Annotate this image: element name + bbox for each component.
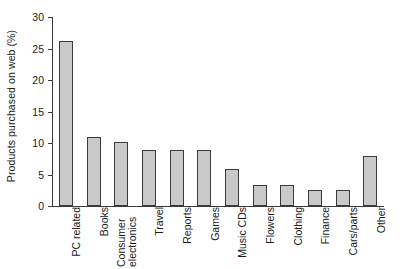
bar: [363, 156, 377, 206]
bar: [197, 150, 211, 206]
x-tick-label: Flowers: [265, 207, 276, 244]
x-tick-label-line: PC related: [70, 207, 82, 257]
x-tick-label: Cars/parts: [348, 207, 359, 255]
x-tick-label-line: Consumer: [115, 219, 127, 267]
y-tick-label: 20: [32, 74, 44, 86]
bar: [253, 185, 267, 206]
x-tick-label: Books: [99, 207, 110, 236]
bars-container: [52, 17, 384, 206]
y-tick-label: 0: [38, 200, 44, 212]
x-tick-label: PC related: [71, 207, 82, 257]
bar: [336, 190, 350, 206]
x-tick-label-line: Finance: [319, 207, 331, 244]
x-axis-tick-labels: PC relatedBooksConsumerelectronicsTravel…: [52, 207, 384, 269]
x-tick-label: Consumerelectronics: [116, 207, 138, 267]
x-tick-label-line: Books: [98, 207, 110, 236]
x-tick-label-line: Cars/parts: [347, 207, 359, 255]
x-tick-label-line: Travel: [153, 207, 165, 236]
y-tick-label: 5: [38, 169, 44, 181]
plot-area: [52, 17, 384, 206]
bar: [308, 190, 322, 206]
y-axis-tick-labels: 051015202530: [22, 0, 48, 212]
x-tick-label: Other: [376, 207, 387, 233]
y-tick-label: 10: [32, 137, 44, 149]
y-axis-title: Products purchased on web (%): [0, 0, 22, 212]
bar: [59, 41, 73, 206]
bar: [280, 185, 294, 206]
x-tick-label: Travel: [154, 207, 165, 236]
y-axis-title-text: Products purchased on web (%): [5, 30, 17, 182]
bar: [170, 150, 184, 206]
x-tick-label-line: Clothing: [292, 207, 304, 246]
y-tick-label: 25: [32, 43, 44, 55]
x-tick-label-line: Flowers: [264, 207, 276, 244]
bar-chart-figure: Products purchased on web (%) 0510152025…: [0, 0, 403, 269]
x-tick-label-line: electronics: [127, 207, 138, 267]
x-tick-label: Games: [210, 207, 221, 241]
bar: [87, 137, 101, 206]
x-tick-label-line: Games: [209, 207, 221, 241]
bar: [142, 150, 156, 206]
x-tick-label-line: Music CDs: [236, 207, 248, 258]
x-tick-label: Finance: [320, 207, 331, 244]
bar: [225, 169, 239, 206]
x-tick-label-line: Reports: [181, 207, 193, 244]
bar: [114, 142, 128, 206]
x-tick-label-line: Other: [375, 207, 387, 233]
x-tick-label: Clothing: [293, 207, 304, 246]
x-tick-label: Reports: [182, 207, 193, 244]
y-tick-label: 15: [32, 106, 44, 118]
y-tick-label: 30: [32, 11, 44, 23]
x-tick-label: Music CDs: [237, 207, 248, 258]
